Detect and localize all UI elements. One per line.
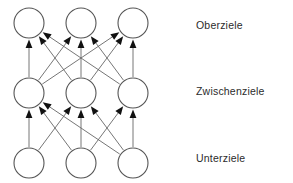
node-o1[interactable] [14,8,44,38]
arrowhead-u2-to-z1 [39,106,47,115]
arrowhead-z2-to-o1 [39,36,47,45]
arrowhead-u1-to-z1 [26,110,33,119]
edge-u2-to-z3 [91,113,119,150]
arrowhead-z1-to-o2 [63,36,71,45]
edge-u3-to-z2 [96,113,124,150]
node-o3[interactable] [118,8,148,38]
edge-z1-to-o2 [39,43,67,80]
nodes-group [14,8,148,178]
goal-hierarchy-diagram: Oberziele Zwischenziele Unterziele [0,0,293,183]
node-u3[interactable] [118,148,148,178]
node-o2[interactable] [66,8,96,38]
arrowhead-z3-to-o1 [43,32,52,40]
arrowhead-z1-to-o3 [110,32,119,40]
node-z2[interactable] [66,78,96,108]
arrowhead-u2-to-z3 [115,106,123,115]
arrowhead-z2-to-o3 [115,36,123,45]
arrowhead-u3-to-z2 [91,106,99,115]
arrowhead-u3-to-z1 [43,102,52,110]
edge-z3-to-o2 [96,43,124,80]
arrowhead-z3-to-o3 [130,40,137,49]
arrowhead-z2-to-o2 [78,40,85,49]
layer-label-oberziele: Oberziele [196,19,243,31]
node-z1[interactable] [14,78,44,108]
edge-u1-to-z2 [39,113,67,150]
node-z3[interactable] [118,78,148,108]
layer-label-unterziele: Unterziele [196,152,245,164]
arrowhead-u2-to-z2 [78,110,85,119]
node-u2[interactable] [66,148,96,178]
arrowhead-u1-to-z2 [63,106,71,115]
layer-label-zwischenziele: Zwischenziele [196,85,265,97]
node-u1[interactable] [14,148,44,178]
arrowhead-z1-to-o1 [26,40,33,49]
arrowhead-z3-to-o2 [91,36,99,45]
arrowhead-u3-to-z3 [130,110,137,119]
